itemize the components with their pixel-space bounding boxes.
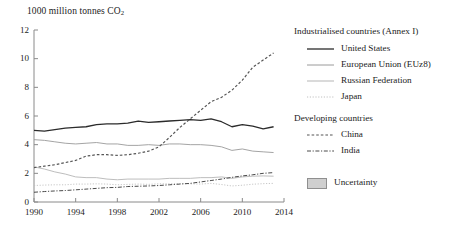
legend-label: United States bbox=[341, 43, 390, 54]
legend-items-industrialised: United StatesEuropean Union (EUz8)Russia… bbox=[294, 41, 449, 105]
legend-group-title-industrialised: Industrialised countries (Annex I) bbox=[294, 26, 449, 38]
series-line-russian-federation bbox=[34, 167, 274, 180]
legend-item: China bbox=[294, 127, 449, 143]
x-axis-tick-label: 1998 bbox=[97, 208, 137, 217]
y-axis-tick-label: 4 bbox=[3, 140, 29, 149]
x-axis-tick-label: 2006 bbox=[181, 208, 221, 217]
series-line-european-union-euz8 bbox=[34, 140, 274, 153]
x-axis-tick-label: 2010 bbox=[222, 208, 262, 217]
chart-title-text: 1000 million tonnes CO bbox=[27, 6, 121, 16]
y-axis-tick-label: 8 bbox=[3, 83, 29, 92]
legend-label: Japan bbox=[341, 91, 362, 102]
y-axis-tick-label: 2 bbox=[3, 169, 29, 178]
y-axis-tick-label: 6 bbox=[3, 112, 29, 121]
chart-title-subscript: 2 bbox=[121, 9, 125, 16]
legend-label: China bbox=[341, 129, 363, 140]
series-line-china bbox=[34, 53, 274, 168]
legend-item-uncertainty: Uncertainty bbox=[294, 175, 449, 191]
legend-label-uncertainty: Uncertainty bbox=[334, 177, 377, 188]
legend-line-key-icon bbox=[307, 44, 334, 54]
y-axis-tick-label: 12 bbox=[3, 26, 29, 35]
series-line-united-states bbox=[34, 119, 274, 131]
y-axis-tick-label: 0 bbox=[3, 198, 29, 207]
y-axis-tick-label: 10 bbox=[3, 54, 29, 63]
legend-item: Japan bbox=[294, 89, 449, 105]
legend-line-key-icon bbox=[307, 76, 334, 86]
legend-item: Russian Federation bbox=[294, 73, 449, 89]
legend-line-key-icon bbox=[307, 92, 334, 102]
legend-item: India bbox=[294, 143, 449, 159]
x-axis-tick-label: 2014 bbox=[264, 208, 304, 217]
plot-area bbox=[34, 30, 284, 202]
chart-legend: Industrialised countries (Annex I) Unite… bbox=[294, 26, 449, 191]
legend-line-key-icon bbox=[307, 146, 334, 156]
chart-figure: 1000 million tonnes CO2 024681012 199019… bbox=[0, 0, 451, 245]
legend-group-title-developing: Developing countries bbox=[294, 113, 449, 125]
legend-item: European Union (EUz8) bbox=[294, 57, 449, 73]
legend-label: India bbox=[341, 145, 360, 156]
legend-items-developing: ChinaIndia bbox=[294, 127, 449, 159]
legend-item: United States bbox=[294, 41, 449, 57]
uncertainty-swatch-icon bbox=[307, 178, 327, 189]
legend-label: Russian Federation bbox=[341, 75, 412, 86]
legend-label: European Union (EUz8) bbox=[341, 59, 431, 70]
x-axis-tick-label: 1994 bbox=[56, 208, 96, 217]
chart-title: 1000 million tonnes CO2 bbox=[27, 6, 124, 16]
legend-line-key-icon bbox=[307, 130, 334, 140]
x-axis-tick-label: 2002 bbox=[139, 208, 179, 217]
plot-canvas bbox=[34, 30, 284, 202]
x-axis-tick-label: 1990 bbox=[14, 208, 54, 217]
legend-line-key-icon bbox=[307, 60, 334, 70]
